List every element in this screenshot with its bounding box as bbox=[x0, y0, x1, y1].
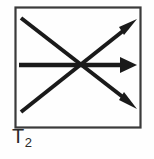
arrow-right bbox=[19, 57, 137, 73]
diagram-canvas bbox=[0, 0, 154, 159]
arrow-up-right-shaft bbox=[21, 27, 128, 112]
figure-container: T2 bbox=[0, 0, 154, 159]
arrow-down-right-shaft bbox=[21, 18, 128, 101]
arrow-right-head bbox=[120, 57, 137, 73]
